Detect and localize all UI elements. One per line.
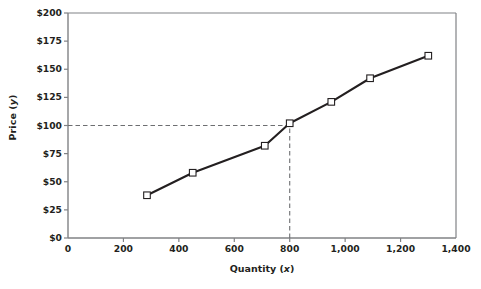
- data-point-marker: [144, 192, 151, 199]
- chart-figure: Price (y) $0$25$50$75$100$125$150$175$20…: [0, 0, 481, 289]
- x-axis-title-suffix: ): [290, 263, 294, 274]
- plot-frame: [68, 13, 456, 238]
- footer-note: [62, 281, 462, 288]
- data-point-marker: [261, 142, 268, 149]
- data-point-marker: [367, 75, 374, 82]
- data-point-marker: [189, 169, 196, 176]
- data-point-marker: [286, 120, 293, 127]
- plot-area: [0, 0, 481, 289]
- data-point-marker: [328, 99, 335, 106]
- x-axis-title: Quantity (x): [68, 263, 456, 274]
- data-point-marker: [425, 52, 432, 59]
- x-axis-title-text: Quantity (: [230, 263, 284, 274]
